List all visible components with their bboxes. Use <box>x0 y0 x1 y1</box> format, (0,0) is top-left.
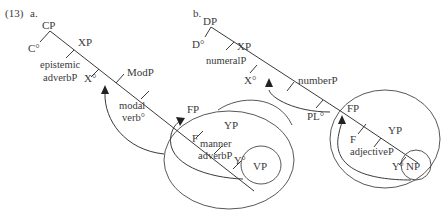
tree-b-numeralp-label: numeralP <box>206 55 246 66</box>
example-number: (13) <box>5 7 24 20</box>
tree-a-fp-label: FP <box>187 103 199 115</box>
tree-a-modal-branch <box>141 91 149 99</box>
tree-a-xp-label: XP <box>78 36 92 48</box>
tree-b-pl-branch <box>316 100 323 108</box>
tree-a-modp-branch <box>116 74 124 83</box>
panel-b-letter: b. <box>193 7 202 19</box>
tree-a-manner-label: manner <box>200 138 232 149</box>
tree-b-dp-label: DP <box>203 15 217 27</box>
tree-b-inner-arrowhead-icon <box>338 115 346 124</box>
tree-a-yp-label: YP <box>224 119 238 131</box>
tree-b: DP D° XP numeralP X° numberP PL° FP F YP… <box>192 15 440 188</box>
tree-b-spec-xp-branch <box>226 42 234 50</box>
tree-b-adjectivep-label: adjectiveP <box>350 146 394 157</box>
tree-b-xp-label: XP <box>237 40 251 52</box>
tree-b-np-label: NP <box>406 160 420 172</box>
tree-a-f-head-label: F <box>192 132 198 144</box>
tree-a-verb-label: verb° <box>122 112 145 123</box>
tree-a-adverbp-label: adverbP <box>43 72 78 83</box>
syntax-tree-figure: (13) a. b. CP C° XP epistemic adverbP X°… <box>0 0 447 211</box>
tree-b-numberp-branch <box>287 82 294 91</box>
tree-b-f-head-label: F <box>350 133 356 145</box>
tree-b-d-branch <box>205 27 211 37</box>
tree-b-x-branch <box>250 65 257 73</box>
tree-a-c-branch <box>40 31 50 42</box>
tree-b-outer-arrowhead-icon <box>265 78 273 87</box>
tree-a-epistemic-label: epistemic <box>40 59 81 70</box>
tree-a-spec-xp-branch <box>66 50 74 58</box>
tree-a-cp-label: CP <box>42 19 55 31</box>
tree-a: CP C° XP epistemic adverbP X° ModP modal… <box>28 19 294 209</box>
tree-a-x-head-label: X° <box>84 72 96 84</box>
tree-b-spine-upper <box>211 27 342 112</box>
tree-b-outer-movement-path <box>269 90 330 112</box>
panel-a-letter: a. <box>30 7 38 19</box>
tree-a-modp-label: ModP <box>127 66 154 78</box>
tree-b-yp-label: YP <box>388 124 402 136</box>
tree-b-x-head-label: X° <box>244 74 256 86</box>
tree-b-d-head-label: D° <box>192 38 204 50</box>
tree-a-manner-adverbp-label: adverbP <box>198 150 233 161</box>
tree-a-c-head-label: C° <box>28 42 40 54</box>
tree-a-outer-arrowhead-icon <box>101 85 109 94</box>
tree-a-y-head-label: Y° <box>234 155 246 166</box>
tree-a-modal-label: modal <box>119 100 145 111</box>
tree-b-numberp-label: numberP <box>298 74 338 86</box>
tree-a-vp-label: VP <box>253 160 267 172</box>
tree-b-fp-label: FP <box>347 102 359 114</box>
